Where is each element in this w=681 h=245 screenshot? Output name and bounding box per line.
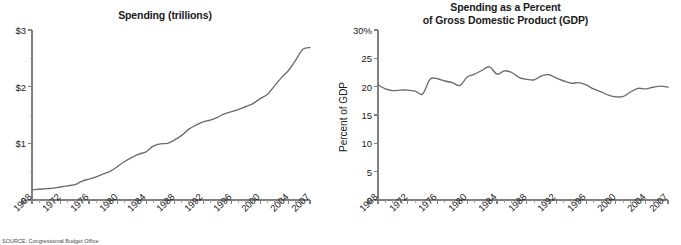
chart-panel-spending-percent-gdp: Spending as a Percent of Gross Domestic … (330, 0, 681, 245)
y-tick-label: $1 (15, 138, 26, 149)
y-tick-label: 20 (361, 81, 372, 92)
data-series-line (32, 48, 310, 190)
two-panel-spending-figure: Spending (trillions) 0$1$2$3196819721976… (0, 0, 681, 245)
y-axis-title: Percent of GDP (338, 82, 349, 152)
y-tick-label: 30% (353, 25, 372, 36)
y-tick-label: 5 (367, 166, 372, 177)
y-tick-label: 10 (361, 138, 372, 149)
y-tick-label: $3 (15, 25, 26, 36)
y-tick-label: 25 (361, 53, 372, 64)
y-tick-label: 15 (361, 110, 372, 121)
source-note: SOURCE: Congressional Budget Office (2, 238, 99, 245)
chart-panel-spending-trillions: Spending (trillions) 0$1$2$3196819721976… (0, 0, 330, 245)
y-tick-label: $2 (15, 81, 26, 92)
data-series-line (378, 67, 668, 97)
